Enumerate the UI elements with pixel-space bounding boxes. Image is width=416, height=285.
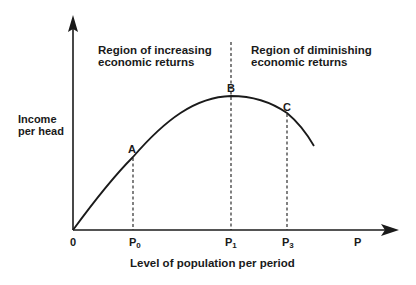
tick-p1: P1 [225, 236, 237, 252]
tick-p0: P0 [129, 236, 141, 252]
region-increasing-label: Region of increasing economic returns [98, 44, 212, 68]
x-axis-end-label: P [354, 236, 361, 248]
tick-p3: P3 [282, 236, 294, 252]
x-axis-label: Level of population per period [130, 257, 295, 269]
origin-label: 0 [70, 236, 76, 248]
region-diminishing-label: Region of diminishing economic returns [251, 44, 372, 68]
income-curve [73, 96, 314, 230]
point-b-label: B [227, 82, 235, 94]
y-axis-label: Income per head [18, 113, 64, 137]
point-a-label: A [128, 143, 136, 155]
point-c-label: C [283, 101, 291, 113]
